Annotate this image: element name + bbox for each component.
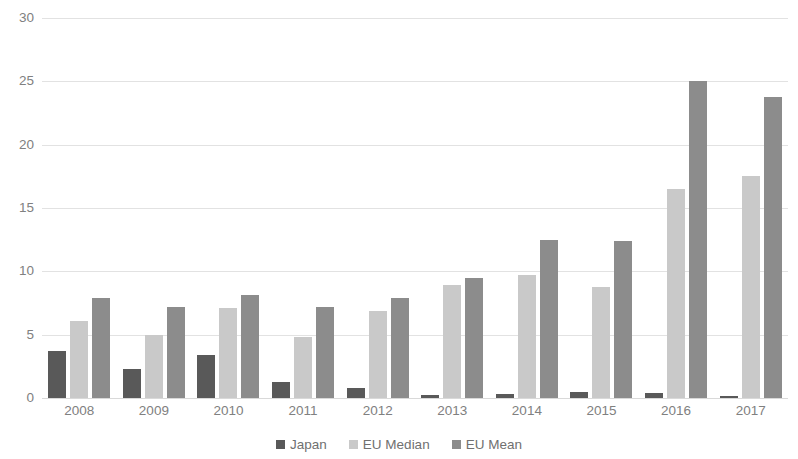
legend-swatch-icon [452,440,461,449]
bar-japan-2010 [197,355,215,398]
chart-legend: JapanEU MedianEU Mean [0,438,798,452]
bar-eu-median-2011 [294,337,312,398]
plot-area [42,18,788,398]
bar-group-bars [117,18,192,398]
y-tick-label: 30 [0,11,34,25]
bar-eu-mean-2012 [391,298,409,398]
bar-group [415,18,490,398]
x-tick-label: 2009 [117,404,192,418]
bar-eu-median-2013 [443,285,461,398]
x-tick-label: 2011 [266,404,341,418]
bar-eu-mean-2008 [92,298,110,398]
x-tick-label: 2013 [415,404,490,418]
bar-group [340,18,415,398]
bar-group [713,18,788,398]
bar-eu-median-2016 [667,189,685,398]
bar-eu-median-2008 [70,321,88,398]
bar-eu-median-2017 [742,176,760,398]
legend-label: Japan [290,438,327,452]
legend-item[interactable]: Japan [276,438,327,452]
x-tick-label: 2010 [191,404,266,418]
bar-japan-2015 [570,392,588,398]
bar-group [490,18,565,398]
bar-japan-2008 [48,351,66,398]
bar-japan-2013 [421,395,439,398]
y-tick-label: 10 [0,264,34,278]
bar-eu-mean-2017 [764,97,782,398]
bar-japan-2009 [123,369,141,398]
bar-eu-median-2015 [592,287,610,398]
bar-eu-mean-2010 [241,295,259,398]
gridline-0 [42,398,788,399]
bar-group [266,18,341,398]
legend-label: EU Median [363,438,430,452]
bar-japan-2011 [272,382,290,398]
bar-eu-median-2009 [145,335,163,398]
bar-japan-2014 [496,394,514,398]
x-tick-label: 2014 [490,404,565,418]
bar-group-bars [713,18,788,398]
x-tick-label: 2016 [639,404,714,418]
bar-group-bars [490,18,565,398]
y-tick-label: 20 [0,138,34,152]
y-tick-label: 25 [0,74,34,88]
bar-eu-mean-2013 [465,278,483,398]
legend-label: EU Mean [466,438,522,452]
bar-group-bars [340,18,415,398]
bar-japan-2012 [347,388,365,398]
bar-group-bars [564,18,639,398]
bar-group [42,18,117,398]
bar-chart: 051015202530 200820092010201120122013201… [0,0,798,459]
bar-eu-mean-2011 [316,307,334,398]
legend-item[interactable]: EU Mean [452,438,522,452]
bar-group [639,18,714,398]
bar-group [117,18,192,398]
bar-eu-median-2010 [219,308,237,398]
bar-eu-mean-2009 [167,307,185,398]
y-tick-label: 5 [0,328,34,342]
bar-eu-mean-2016 [689,81,707,398]
bar-group [564,18,639,398]
legend-swatch-icon [276,440,285,449]
x-tick-label: 2012 [340,404,415,418]
bar-japan-2016 [645,393,663,398]
y-tick-label: 0 [0,391,34,405]
bar-japan-2017 [720,396,738,398]
bar-group-bars [42,18,117,398]
bar-eu-median-2012 [369,311,387,398]
bar-group-bars [639,18,714,398]
y-tick-label: 15 [0,201,34,215]
legend-item[interactable]: EU Median [349,438,430,452]
bar-group [191,18,266,398]
x-tick-label: 2017 [713,404,788,418]
bar-group-bars [415,18,490,398]
bar-group-bars [191,18,266,398]
x-tick-label: 2015 [564,404,639,418]
bar-eu-median-2014 [518,275,536,398]
x-tick-label: 2008 [42,404,117,418]
bar-group-bars [266,18,341,398]
legend-swatch-icon [349,440,358,449]
bar-eu-mean-2014 [540,240,558,398]
bar-eu-mean-2015 [614,241,632,398]
